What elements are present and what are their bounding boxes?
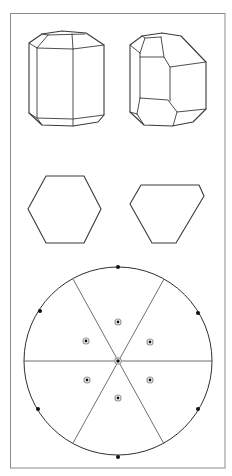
primitive-pole bbox=[116, 265, 120, 269]
upper-pole bbox=[115, 395, 121, 401]
crystal-2-edge bbox=[161, 37, 164, 57]
crystal-2-outline bbox=[130, 33, 206, 126]
crystal-2-edge bbox=[140, 57, 206, 67]
crystal-figure bbox=[0, 0, 232, 476]
crystal-1-edge bbox=[42, 34, 48, 35]
crystal-1-edge bbox=[72, 34, 73, 49]
section-2-hexagon bbox=[130, 185, 204, 243]
crystal-1-drawing bbox=[29, 31, 104, 126]
crystal-1-edge bbox=[48, 34, 85, 35]
center-pole bbox=[115, 358, 121, 364]
primitive-pole bbox=[116, 455, 120, 459]
upper-pole bbox=[147, 377, 153, 383]
crystal-1-bottom-ring bbox=[29, 113, 104, 119]
upper-pole bbox=[84, 377, 90, 383]
crystal-2-edge bbox=[140, 98, 206, 112]
primitive-pole bbox=[196, 407, 200, 411]
crystal-2-edge bbox=[173, 112, 177, 126]
upper-pole bbox=[83, 338, 89, 344]
upper-pole bbox=[147, 339, 153, 345]
crystal-2-drawing bbox=[130, 33, 206, 126]
primitive-pole bbox=[196, 311, 200, 315]
primitive-pole bbox=[36, 407, 40, 411]
stereogram bbox=[24, 265, 212, 459]
crystal-1-outline bbox=[29, 31, 104, 126]
upper-pole bbox=[115, 319, 121, 325]
section-1-hexagon bbox=[28, 176, 101, 243]
crystal-2-edge bbox=[137, 98, 140, 114]
crystal-2-edge bbox=[140, 38, 145, 53]
primitive-pole bbox=[38, 309, 42, 313]
crystal-2-edge bbox=[130, 45, 140, 53]
